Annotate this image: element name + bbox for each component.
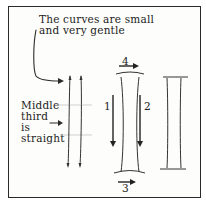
diagram-drawing <box>0 0 206 203</box>
guide-lines <box>55 105 92 135</box>
first-figure-strokes <box>68 76 81 166</box>
curve-pointer-head <box>58 78 64 84</box>
stroke-arrows <box>113 66 140 182</box>
curve-pointer-arrow <box>34 30 60 81</box>
third-figure-shape <box>160 77 188 169</box>
